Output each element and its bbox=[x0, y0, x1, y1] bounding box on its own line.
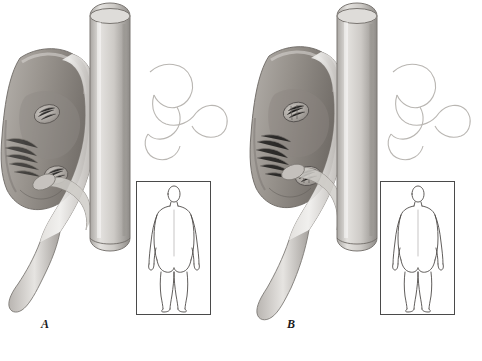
body-figure-posterior-a bbox=[137, 182, 210, 314]
ureter-a bbox=[9, 232, 60, 312]
panel-a: A bbox=[0, 0, 241, 361]
adrenal-gland-outline-a bbox=[145, 64, 227, 159]
panel-b: B bbox=[241, 0, 482, 361]
ureter-b bbox=[257, 230, 309, 320]
aorta-a bbox=[90, 3, 130, 251]
aorta-top-ellipse-b bbox=[337, 9, 377, 24]
aorta-b bbox=[337, 3, 377, 251]
body-diagram-inset-b bbox=[380, 181, 455, 315]
aorta-top-ellipse-a bbox=[90, 9, 130, 24]
body-diagram-inset-a bbox=[136, 181, 211, 315]
figure-container: A bbox=[0, 0, 482, 361]
body-figure-posterior-b bbox=[381, 182, 454, 314]
panel-label-b: B bbox=[287, 317, 296, 332]
panel-label-a: A bbox=[41, 317, 50, 332]
adrenal-gland-outline-b bbox=[388, 64, 470, 159]
